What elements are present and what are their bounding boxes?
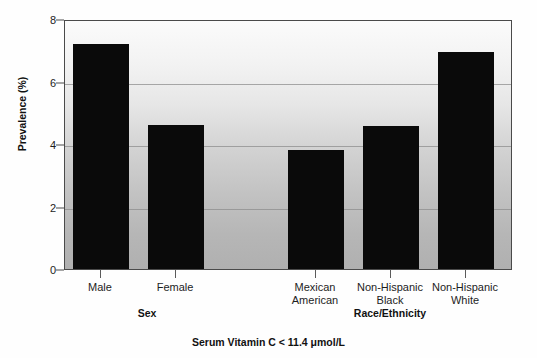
y-tick-label-8: 8 [16, 14, 56, 26]
chart-caption: Serum Vitamin C < 11.4 μmol/L [0, 336, 537, 348]
vitamin-c-prevalence-bar-chart: 8 6 4 2 0 Prevalence (%) Male Female Me [0, 0, 537, 358]
bar-mexican-american [288, 150, 344, 269]
bar-non-hispanic-black [363, 126, 419, 269]
y-axis: 8 6 4 2 0 Prevalence (%) [8, 20, 56, 270]
y-tick-label-2: 2 [16, 202, 56, 214]
y-tick-mark-2 [56, 207, 64, 208]
x-tick-label-non-hispanic-white: Non-Hispanic White [410, 281, 520, 306]
plot-area [64, 20, 512, 270]
group-label-sex: Sex [77, 307, 217, 319]
y-tick-label-0: 0 [16, 264, 56, 276]
y-tick-mark-8 [56, 20, 64, 21]
x-tick-label-non-hispanic-white-line1: Non-Hispanic [410, 281, 520, 294]
y-tick-mark-0 [56, 270, 64, 271]
x-tick-label-female: Female [120, 281, 230, 294]
y-tick-mark-6 [56, 82, 64, 83]
y-axis-title: Prevalence (%) [16, 34, 28, 194]
x-tick-mark-mexican-american [315, 270, 316, 278]
x-tick-mark-non-hispanic-black [390, 270, 391, 278]
bar-female [148, 125, 204, 269]
x-tick-label-non-hispanic-white-line2: White [410, 294, 520, 307]
x-tick-mark-male [100, 270, 101, 278]
y-tick-mark-4 [56, 145, 64, 146]
bar-non-hispanic-white [438, 52, 494, 269]
bar-male [73, 44, 129, 269]
x-tick-mark-non-hispanic-white [465, 270, 466, 278]
x-tick-mark-female [175, 270, 176, 278]
group-label-race-ethnicity: Race/Ethnicity [320, 307, 460, 319]
x-tick-label-female-line1: Female [120, 281, 230, 294]
